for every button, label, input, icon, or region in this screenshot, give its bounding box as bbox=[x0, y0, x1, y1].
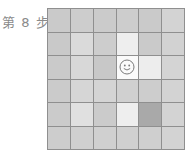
grid-cell bbox=[162, 103, 184, 126]
grid-cell bbox=[48, 103, 70, 126]
grid-cell bbox=[117, 103, 139, 126]
dark-cell bbox=[139, 103, 161, 126]
grid-cell bbox=[71, 56, 93, 79]
grid-cell bbox=[117, 9, 139, 32]
grid-cell bbox=[162, 33, 184, 56]
grid-cell bbox=[94, 56, 116, 79]
grid-cell bbox=[162, 127, 184, 150]
grid-cell bbox=[94, 9, 116, 32]
grid-cell bbox=[71, 33, 93, 56]
grid-cell bbox=[139, 127, 161, 150]
grid-cell bbox=[162, 9, 184, 32]
grid-cell bbox=[48, 80, 70, 103]
grid-cell bbox=[139, 80, 161, 103]
speckled-cell bbox=[71, 103, 93, 126]
grid-cell bbox=[117, 127, 139, 150]
grid-cell bbox=[162, 80, 184, 103]
grid-cell bbox=[94, 127, 116, 150]
smiley-face-icon bbox=[119, 59, 135, 75]
grid-cell bbox=[162, 56, 184, 79]
grid-cell bbox=[139, 56, 161, 79]
grid-cell bbox=[48, 56, 70, 79]
grid-cell bbox=[71, 127, 93, 150]
grid-cell bbox=[94, 103, 116, 126]
step-label: 第 8 步 bbox=[2, 12, 50, 31]
grid-board bbox=[47, 8, 185, 150]
grid-cell bbox=[71, 80, 93, 103]
grid-cell bbox=[48, 9, 70, 32]
grid-cell bbox=[94, 80, 116, 103]
grid-cell bbox=[71, 9, 93, 32]
grid-cell bbox=[117, 33, 139, 56]
grid-cell bbox=[117, 80, 139, 103]
grid-cell bbox=[48, 127, 70, 150]
grid-cell bbox=[48, 33, 70, 56]
agent-cell bbox=[117, 56, 139, 79]
grid-cell bbox=[94, 33, 116, 56]
grid-cell bbox=[139, 33, 161, 56]
grid-cell bbox=[139, 9, 161, 32]
